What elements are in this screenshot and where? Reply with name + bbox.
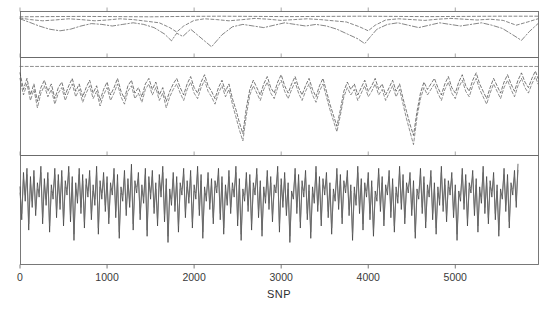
panel-top-trace-flat-upper	[20, 16, 538, 17]
plot-canvas	[0, 0, 555, 316]
x-tick-label-0: 0	[17, 272, 23, 283]
panel-top-trace-mid-wavy	[20, 18, 538, 32]
panel-bottom	[20, 156, 539, 265]
panel-middle-trace-b	[20, 77, 538, 145]
x-tick-label-5000: 5000	[444, 272, 467, 283]
chart-figure: 010002000300040005000 SNP	[0, 0, 555, 316]
x-axis-ticks	[20, 8, 455, 269]
x-tick-label-4000: 4000	[357, 272, 380, 283]
x-tick-label-3000: 3000	[269, 272, 292, 283]
panel-middle	[20, 58, 539, 156]
panel-middle-frame	[21, 58, 539, 156]
x-tick-label-2000: 2000	[182, 272, 205, 283]
x-axis-title: SNP	[267, 288, 291, 300]
panel-top-trace-lower-wavy	[20, 19, 538, 47]
x-tick-label-1000: 1000	[95, 272, 118, 283]
panel-top	[20, 12, 539, 58]
panel-top-frame	[21, 12, 539, 58]
panel-middle-trace-a	[20, 71, 538, 135]
panel-bottom-frame	[21, 156, 539, 265]
